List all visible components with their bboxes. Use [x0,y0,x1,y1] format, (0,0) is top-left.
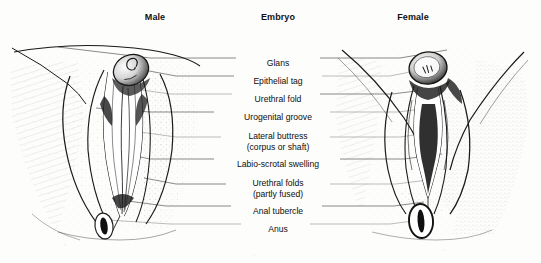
label-urogenital-groove: Urogenital groove [244,112,312,123]
label-glans: Glans [267,58,289,69]
label-text-primary: Urethral fold [255,94,302,104]
heading-embryo: Embryo [261,12,295,22]
label-epithelial-tag: Epithelial tag [253,76,302,87]
male-figure [8,45,200,240]
figure-canvas: Male Embryo Female GlansEpithelial tagUr… [0,0,541,263]
label-anus: Anus [268,224,288,235]
label-text-secondary: (corpus or shaft) [247,142,310,153]
label-text-primary: Epithelial tag [253,76,302,86]
label-text-primary: Anus [268,224,288,234]
label-lateral-buttress: Lateral buttress(corpus or shaft) [247,131,310,153]
label-text-primary: Labio-scrotal swelling [237,159,319,169]
label-labio-scrotal-swelling: Labio-scrotal swelling [237,159,319,170]
label-text-primary: Urogenital groove [244,112,312,122]
label-anal-tubercle: Anal tubercle [253,206,303,217]
label-urethral-fold: Urethral fold [255,94,302,105]
label-text-primary: Lateral buttress [248,131,307,141]
label-text-primary: Anal tubercle [253,206,303,216]
label-text-primary: Glans [267,58,289,68]
label-text-primary: Urethral folds [252,178,303,188]
label-urethral-folds: Urethral folds(partly fused) [252,178,303,200]
label-text-secondary: (partly fused) [252,189,303,200]
heading-male: Male [145,12,165,22]
female-figure [336,46,529,240]
heading-female: Female [397,12,429,22]
